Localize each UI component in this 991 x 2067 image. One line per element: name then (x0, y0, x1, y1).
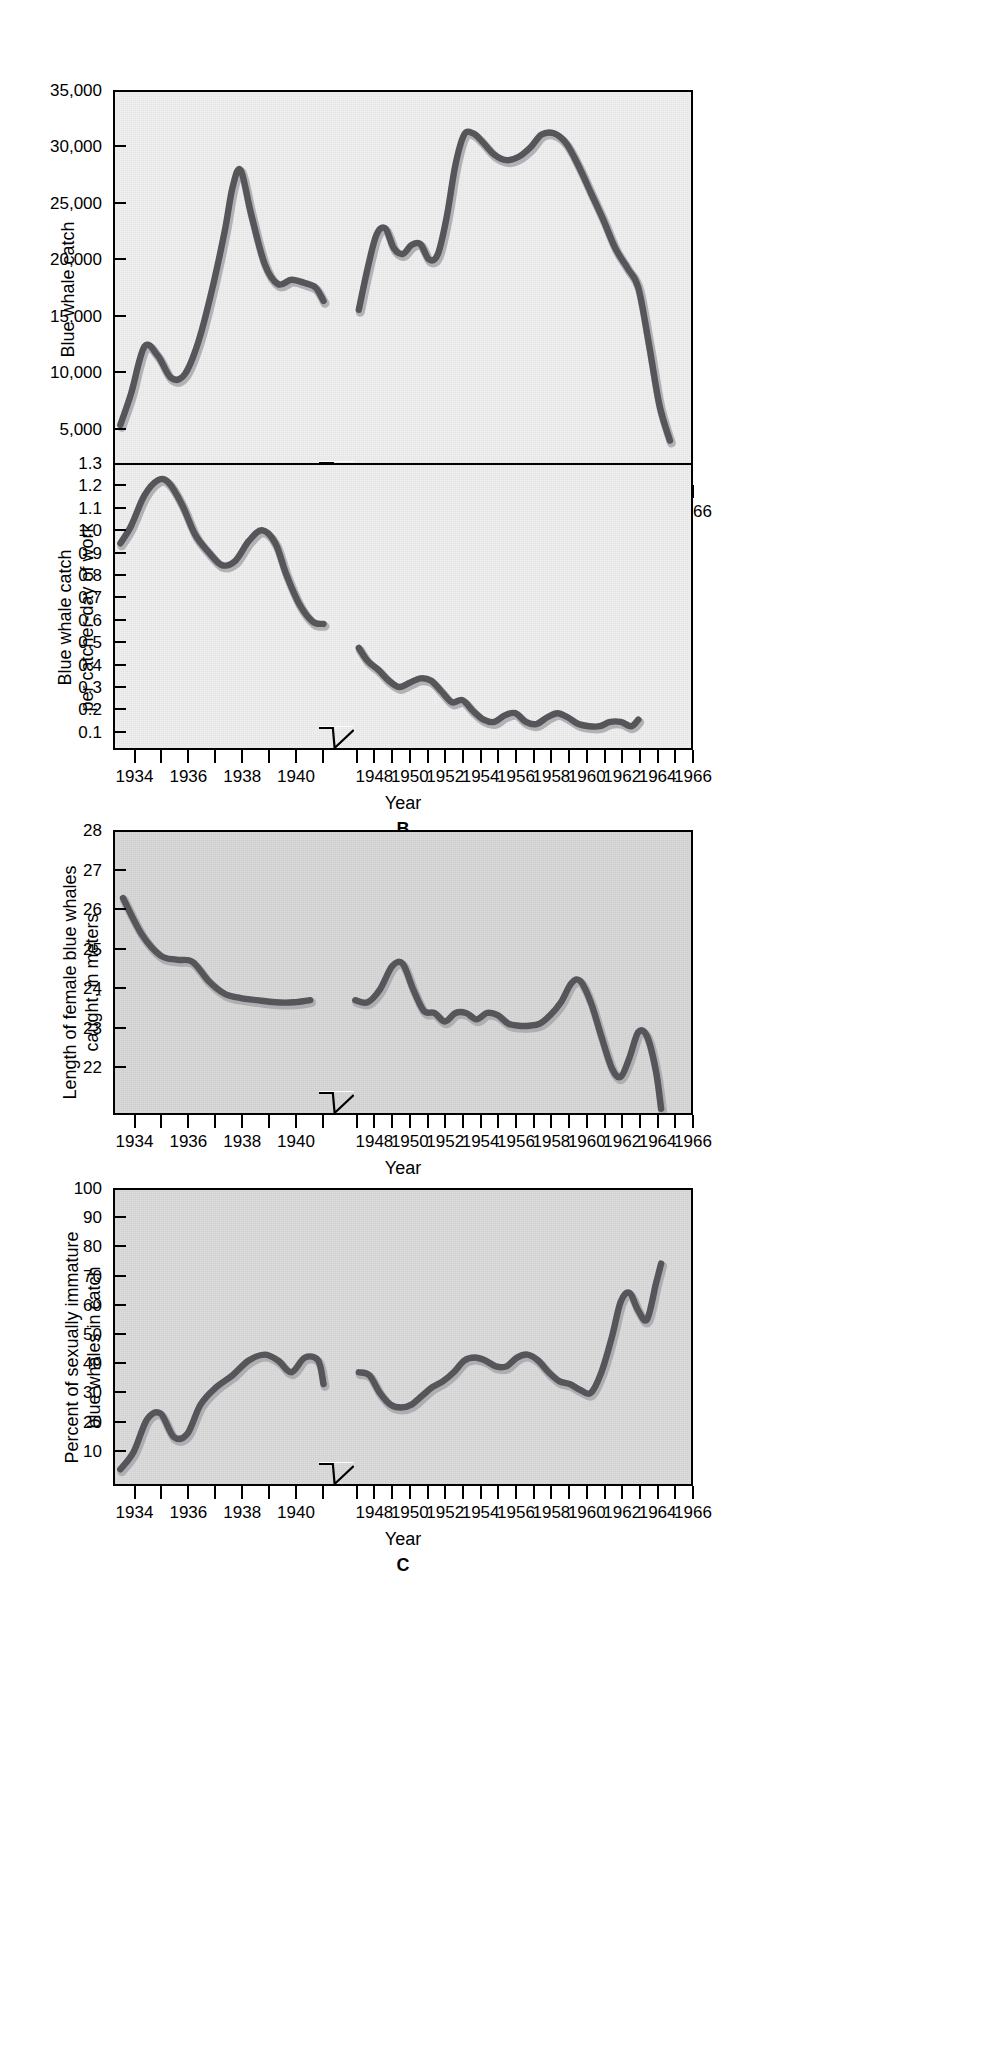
x-tick-label: 1956 (497, 1504, 535, 1521)
x-tick-label: 1952 (426, 1133, 464, 1150)
x-tick-mark (214, 1486, 216, 1499)
x-tick-mark (160, 1486, 162, 1499)
x-tick-label: 1948 (355, 768, 393, 785)
y-tick-mark (113, 987, 126, 989)
x-tick-label: 1936 (169, 1504, 207, 1521)
x-tick-mark (586, 1486, 588, 1499)
x-tick-mark (480, 1486, 482, 1499)
x-tick-label: 1938 (223, 1504, 261, 1521)
x-tick-label: 1962 (603, 1504, 641, 1521)
x-tick-label: 1950 (391, 768, 429, 785)
x-tick-mark (550, 1115, 552, 1128)
y-tick-label: 1.3 (10, 455, 102, 472)
x-tick-label: 1960 (568, 1133, 606, 1150)
panel-a-y-axis-label: Blue whale catch (58, 170, 79, 410)
y-tick-label: 15,000 (10, 308, 102, 325)
panel-b-y-axis-label-line2: per catcher-day of work (77, 498, 98, 738)
x-tick-label: 1958 (532, 768, 570, 785)
x-tick-label: 1956 (497, 1133, 535, 1150)
axis-break-symbol (319, 726, 354, 752)
y-tick-mark (113, 869, 126, 871)
x-tick-mark (444, 750, 446, 763)
x-tick-mark (268, 1486, 270, 1499)
y-tick-mark (113, 1216, 126, 1218)
x-tick-mark (356, 750, 358, 763)
x-tick-mark (568, 1486, 570, 1499)
panel-d: 100908070605040302010 Percent of sexuall… (0, 1180, 991, 1580)
x-tick-mark (533, 1115, 535, 1128)
x-tick-mark (427, 1486, 429, 1499)
x-tick-label: 1952 (426, 1504, 464, 1521)
x-tick-label: 1934 (116, 1133, 154, 1150)
x-tick-mark (462, 1115, 464, 1128)
x-tick-mark (604, 1115, 606, 1128)
x-tick-label: 1940 (277, 768, 315, 785)
x-tick-mark (409, 1115, 411, 1128)
x-tick-mark (515, 1486, 517, 1499)
panel-d-x-axis-label: Year (385, 1530, 421, 1548)
panel-b-plot-frame (113, 463, 693, 750)
x-tick-mark (550, 1486, 552, 1499)
y-tick-mark (113, 1275, 126, 1277)
y-tick-mark (113, 908, 126, 910)
x-tick-mark (533, 750, 535, 763)
panel-b-y-axis-label-line1: Blue whale catch (55, 498, 76, 738)
x-tick-label: 1966 (674, 1504, 712, 1521)
panel-c-plot-frame (113, 830, 693, 1115)
panel-c-y-axis-label-line2: caught, in meters (82, 858, 103, 1108)
y-tick-mark (113, 202, 126, 204)
x-tick-mark (497, 1486, 499, 1499)
panel-c-y-axis-label-line1: Length of female blue whales (60, 858, 81, 1108)
y-tick-mark (113, 1245, 126, 1247)
y-tick-label: 5,000 (10, 421, 102, 438)
y-tick-label: 28 (10, 822, 102, 839)
x-tick-mark (356, 1115, 358, 1128)
x-tick-mark (692, 1115, 694, 1128)
x-tick-mark (550, 750, 552, 763)
x-tick-mark (187, 1115, 189, 1128)
y-tick-mark (113, 1027, 126, 1029)
x-tick-mark (409, 1486, 411, 1499)
y-tick-mark (113, 664, 126, 666)
x-tick-mark (268, 1115, 270, 1128)
x-tick-mark (497, 1115, 499, 1128)
x-tick-mark (657, 750, 659, 763)
x-tick-mark (568, 1115, 570, 1128)
x-tick-label: 1948 (355, 1504, 393, 1521)
x-tick-mark (621, 1115, 623, 1128)
x-tick-label: 1952 (426, 768, 464, 785)
x-tick-mark (674, 750, 676, 763)
y-tick-mark (113, 619, 126, 621)
x-tick-label: 1958 (532, 1133, 570, 1150)
x-tick-mark (241, 750, 243, 763)
y-tick-mark (113, 596, 126, 598)
panel-d-y-axis-label-line1: Percent of sexually immature (62, 1220, 83, 1475)
x-tick-mark (391, 1486, 393, 1499)
x-tick-mark (160, 1115, 162, 1128)
x-tick-mark (692, 750, 694, 763)
x-tick-mark (657, 1486, 659, 1499)
x-tick-label: 1962 (603, 768, 641, 785)
x-tick-mark (241, 1115, 243, 1128)
y-tick-label: 30,000 (10, 138, 102, 155)
x-tick-label: 1954 (462, 768, 500, 785)
x-tick-mark (604, 750, 606, 763)
y-tick-mark (113, 529, 126, 531)
y-tick-label: 1.2 (10, 477, 102, 494)
x-tick-label: 1960 (568, 1504, 606, 1521)
x-tick-mark (533, 1486, 535, 1499)
x-tick-mark (356, 1486, 358, 1499)
x-tick-mark (134, 750, 136, 763)
x-tick-label: 1962 (603, 1133, 641, 1150)
axis-break-symbol (319, 1462, 354, 1488)
y-tick-mark (113, 371, 126, 373)
x-tick-mark (187, 1486, 189, 1499)
y-tick-mark (113, 428, 126, 430)
x-tick-label: 1960 (568, 768, 606, 785)
x-tick-label: 1966 (674, 1133, 712, 1150)
y-tick-label: 35,000 (10, 82, 102, 99)
x-tick-mark (604, 1486, 606, 1499)
y-tick-mark (113, 708, 126, 710)
x-tick-mark (134, 1115, 136, 1128)
x-tick-mark (391, 750, 393, 763)
